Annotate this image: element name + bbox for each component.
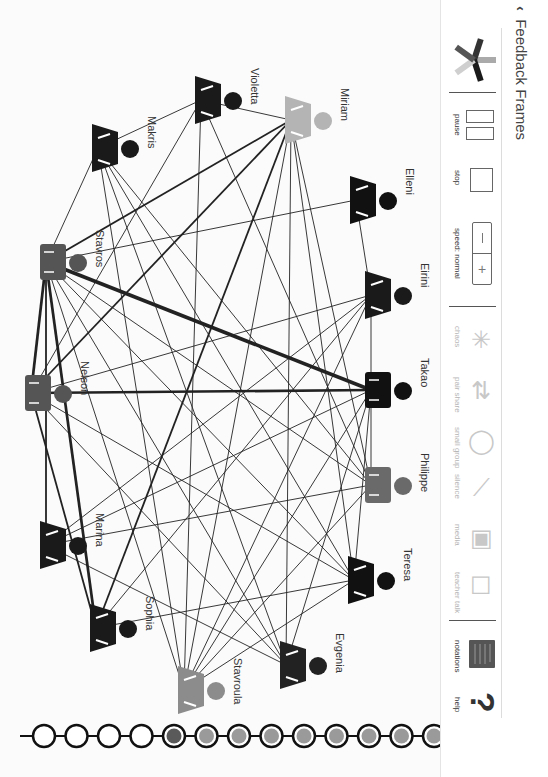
frame-dot[interactable] — [98, 725, 120, 747]
stop-label: stop — [453, 170, 462, 185]
speed-label: speed: normal — [453, 228, 462, 279]
student-name: Philippe — [419, 453, 431, 492]
student-node-sophia[interactable]: Sophia — [90, 604, 140, 658]
student-node-makris[interactable]: Makris — [92, 124, 142, 178]
student-figure-icon — [92, 124, 142, 174]
toolbar-separator — [449, 620, 496, 621]
notebook-icon — [469, 640, 495, 668]
student-node-miriam[interactable]: Miriam — [285, 96, 335, 150]
student-name: Stavros — [94, 230, 106, 267]
help-label: help — [453, 697, 462, 712]
student-name: Sophia — [144, 596, 156, 630]
header: ‹ Feedback Frames — [513, 6, 530, 140]
page-title: Feedback Frames — [513, 19, 530, 140]
student-name: Eirini — [419, 263, 431, 287]
student-figure-icon — [348, 556, 398, 606]
student-figure-icon — [350, 176, 400, 226]
pair-share-arrows-icon: ⇅ — [471, 377, 491, 405]
mode-label: silence — [453, 474, 462, 499]
student-name: Miriam — [339, 88, 351, 121]
student-figure-icon — [195, 76, 245, 126]
student-name: Marina — [94, 513, 106, 547]
toolbar-divider — [501, 28, 502, 718]
student-figure-icon — [365, 271, 415, 321]
chaos-arrows-icon: ✳ — [471, 326, 491, 354]
student-node-stavros[interactable]: Stavros — [40, 238, 90, 292]
student-figure-icon — [178, 666, 228, 716]
stop-button[interactable] — [470, 168, 493, 192]
speed-stepper[interactable]: + — [472, 222, 492, 285]
student-figure-icon — [365, 366, 415, 416]
mode-label: media — [453, 524, 462, 546]
small-group-circle-icon: ◯ — [468, 427, 495, 455]
student-figure-icon — [25, 369, 75, 419]
student-figure-icon — [40, 521, 90, 571]
notations-button[interactable] — [469, 640, 495, 668]
mode-button-small-group[interactable]: ◯ — [466, 425, 496, 457]
mode-button-chaos[interactable]: ✳ — [466, 324, 496, 356]
student-name: Teresa — [402, 548, 414, 581]
back-chevron-icon[interactable]: ‹ — [513, 6, 530, 11]
frame-dot[interactable] — [131, 725, 153, 747]
plus-icon: + — [478, 261, 486, 277]
student-name: Violetta — [249, 68, 261, 105]
student-figure-icon — [365, 461, 415, 511]
speed-decrease-button[interactable] — [473, 223, 491, 254]
frame-dot[interactable] — [66, 725, 88, 747]
mode-label: teacher talk — [453, 572, 462, 613]
pause-label: pause — [453, 114, 462, 136]
media-film-icon: ▣ — [470, 524, 493, 552]
student-name: Nelson — [79, 361, 91, 395]
student-node-takao[interactable]: Takao — [365, 366, 415, 420]
mode-label: pair share — [453, 377, 462, 413]
speed-increase-button[interactable]: + — [473, 254, 491, 284]
student-figure-icon — [280, 641, 330, 691]
mode-label: small group — [453, 427, 462, 468]
notations-label: notations — [453, 640, 462, 672]
frame-dot[interactable] — [33, 725, 55, 747]
frame-timeline[interactable] — [0, 716, 440, 756]
app-logo-icon — [450, 34, 498, 86]
student-node-stavroula[interactable]: Stavroula — [178, 666, 228, 720]
student-figure-icon — [285, 96, 335, 146]
mode-label: chaos — [453, 326, 462, 347]
student-figure-icon — [40, 238, 90, 288]
student-node-elleni[interactable]: Elleni — [350, 176, 400, 230]
student-node-evgenia[interactable]: Evgenia — [280, 641, 330, 695]
student-figure-icon — [90, 604, 140, 654]
student-name: Elleni — [404, 168, 416, 195]
student-node-philippe[interactable]: Philippe — [365, 461, 415, 515]
student-node-violetta[interactable]: Violetta — [195, 76, 245, 130]
help-button[interactable]: ? — [466, 692, 500, 713]
student-node-eirini[interactable]: Eirini — [365, 271, 415, 325]
student-name: Makris — [146, 116, 158, 148]
student-name: Evgenia — [334, 633, 346, 673]
student-node-marina[interactable]: Marina — [40, 521, 90, 575]
toolbar-separator — [449, 92, 496, 93]
teacher-talk-icon: ☐ — [470, 572, 492, 600]
student-name: Takao — [419, 358, 431, 387]
mode-button-teacher-talk[interactable]: ☐ — [466, 570, 496, 602]
student-node-nelson[interactable]: Nelson — [25, 369, 75, 423]
student-node-teresa[interactable]: Teresa — [348, 556, 398, 610]
mode-button-silence[interactable]: ⟋ — [466, 472, 496, 504]
student-name: Stavroula — [232, 658, 244, 704]
question-mark-icon: ? — [466, 692, 500, 713]
silence-slash-icon: ⟋ — [473, 474, 490, 502]
mode-button-media[interactable]: ▣ — [466, 522, 496, 554]
mode-button-pair-share[interactable]: ⇅ — [466, 375, 496, 407]
minus-icon — [482, 233, 483, 243]
toolbar-border — [440, 0, 441, 777]
toolbar-separator — [449, 306, 496, 307]
pause-button[interactable] — [466, 110, 496, 144]
